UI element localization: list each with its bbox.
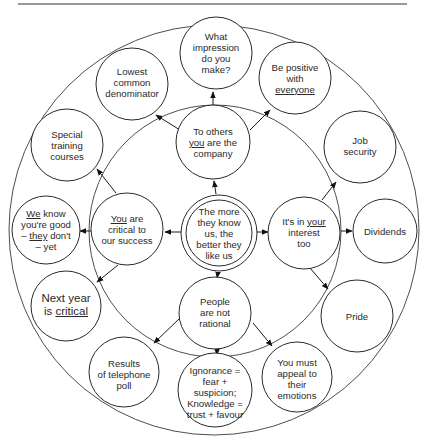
- arrow-people-appeal: [253, 323, 272, 346]
- label-line: Lowest: [117, 66, 147, 77]
- label-line: courses: [50, 151, 84, 162]
- arrow-center-to-others: [214, 181, 216, 194]
- label-line: Dividends: [364, 226, 406, 237]
- underlined-word: You: [111, 213, 127, 224]
- underlined-word: critical: [55, 305, 88, 317]
- impression-label: What impression do you make?: [176, 28, 256, 78]
- label-line: – they don't: [21, 230, 70, 241]
- label-line: security: [343, 146, 376, 157]
- label-line: better they: [196, 239, 241, 250]
- label-line: their: [288, 379, 307, 390]
- nextyear-label: Next year is critical: [26, 290, 106, 320]
- label-line: you are the: [189, 137, 237, 148]
- dividends-label: Dividends: [345, 221, 425, 241]
- label-line: of telephone: [98, 369, 151, 380]
- critical-label: You are critical to our success: [87, 209, 167, 249]
- pride-label: Pride: [317, 306, 397, 326]
- label-line: What: [205, 31, 227, 42]
- label-line: critical to: [108, 224, 146, 235]
- label-line: with: [286, 73, 303, 84]
- label-line: like us: [205, 250, 232, 261]
- label-line: Pride: [346, 311, 368, 322]
- lowest-label: Lowest common denominator: [92, 62, 172, 102]
- label-line: To others: [193, 126, 232, 137]
- label-line: Ignorance =: [190, 365, 241, 376]
- positive-label: Be positive with everyone: [255, 58, 335, 98]
- people-label: People are not rational: [175, 292, 255, 332]
- arrow-critical-nextyear: [97, 265, 118, 282]
- label-line: trust + favour: [187, 409, 243, 420]
- label-line: Results: [108, 358, 140, 369]
- label-line: It's in your: [282, 216, 325, 227]
- to-others-label: To others you are the company: [173, 122, 253, 162]
- label-line: is critical: [44, 305, 88, 318]
- arrow-critical-training: [97, 169, 116, 193]
- job-label: Job security: [320, 131, 400, 161]
- label-line: interest: [288, 227, 319, 238]
- label-line: The more: [198, 206, 239, 217]
- label-line: Be positive: [272, 62, 319, 73]
- label-line: they know: [197, 217, 240, 228]
- label-line: Next year: [41, 292, 90, 305]
- ignorance-label: Ignorance = fear + suspicion; Knowledge …: [175, 362, 255, 422]
- label-line: company: [194, 148, 233, 159]
- training-label: Special training courses: [27, 125, 107, 165]
- underlined-word: you: [189, 137, 204, 148]
- label-line: training: [51, 140, 82, 151]
- label-line: are not: [200, 307, 230, 318]
- interest-label: It's in your interest too: [264, 212, 344, 252]
- arrow-interest-job: [322, 182, 336, 200]
- label-line: do you: [202, 53, 231, 64]
- label-line: too: [297, 238, 310, 249]
- arrow-interest-pride: [310, 268, 328, 289]
- label-line: People: [200, 296, 230, 307]
- label-line: – yet: [36, 241, 57, 252]
- label-line: impression: [193, 42, 239, 53]
- label-line: Special: [51, 129, 82, 140]
- underlined-word: We: [26, 208, 40, 219]
- label-line: everyone: [275, 84, 314, 95]
- label-line: You are: [111, 213, 144, 224]
- label-line: make?: [202, 64, 231, 75]
- label-line: fear +: [203, 376, 228, 387]
- label-line: We know: [26, 208, 65, 219]
- underlined-word: they: [29, 230, 47, 241]
- label-line: common: [114, 77, 151, 88]
- label-line: denominator: [105, 88, 158, 99]
- center-label: The more they know us, the better they l…: [179, 203, 259, 263]
- label-line: suspicion;: [194, 387, 237, 398]
- label-line: poll: [117, 380, 132, 391]
- results-label: Results of telephone poll: [84, 354, 164, 394]
- label-line: us, the: [205, 228, 234, 239]
- label-line: Knowledge =: [187, 398, 243, 409]
- underlined-word: your: [307, 216, 326, 227]
- label-line: emotions: [278, 390, 317, 401]
- label-line: Job: [352, 135, 367, 146]
- label-line: our success: [101, 235, 152, 246]
- label-line: you're good: [21, 219, 71, 230]
- appeal-label: You must appeal to their emotions: [257, 355, 337, 403]
- label-line: You must: [277, 357, 317, 368]
- label-line: appeal to: [277, 368, 316, 379]
- weknow-label: We know you're good – they don't – yet: [6, 206, 86, 254]
- label-line: rational: [199, 318, 230, 329]
